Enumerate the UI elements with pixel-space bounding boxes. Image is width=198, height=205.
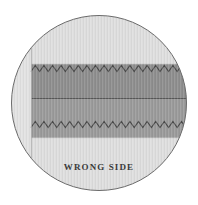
sewing-detail-illustration: WRONG SIDE <box>0 0 198 205</box>
illustration-canvas: WRONG SIDE <box>0 0 198 205</box>
wrong-side-caption: WRONG SIDE <box>64 162 134 172</box>
